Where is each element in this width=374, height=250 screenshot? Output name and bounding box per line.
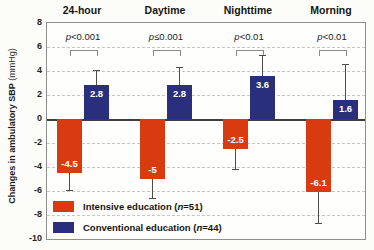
bar-value-label: -6.1 <box>306 177 331 188</box>
gridline <box>47 71 365 72</box>
significance-bracket <box>153 50 181 56</box>
bar-value-label: 2.8 <box>167 88 192 99</box>
error-bar-cap <box>93 70 100 71</box>
significance-bracket <box>319 50 347 56</box>
y-tick-label: -10 <box>16 233 42 243</box>
bar-value-label: -5 <box>140 164 165 175</box>
figure: Changes in ambulatory SBP (mmHg) p<0.001… <box>0 0 374 250</box>
category-header: Daytime <box>123 4 207 16</box>
legend-item: Conventional education (n=44) <box>53 222 222 233</box>
error-bar <box>96 70 97 86</box>
y-tick-label: 8 <box>16 17 42 27</box>
error-bar <box>235 149 236 169</box>
p-value-label: p<0.01 <box>212 31 286 42</box>
y-tick-label: 0 <box>16 113 42 123</box>
y-tick-label: 2 <box>16 89 42 99</box>
bar-value-label: 2.8 <box>84 88 109 99</box>
y-tick-label: 6 <box>16 41 42 51</box>
category-header: Morning <box>289 4 373 16</box>
legend-swatch <box>53 201 74 212</box>
y-tick-label: -6 <box>16 185 42 195</box>
error-bar <box>69 173 70 190</box>
bar-value-label: -4.5 <box>57 158 82 169</box>
p-value-label: p≤0.001 <box>129 31 203 42</box>
significance-bracket <box>70 50 98 56</box>
error-bar-cap <box>342 64 349 65</box>
bar-value-label: 3.6 <box>250 79 275 90</box>
y-tick-label: -8 <box>16 209 42 219</box>
y-tick-label: 4 <box>16 65 42 75</box>
legend-item: Intensive education (n=51) <box>53 201 203 212</box>
legend-swatch <box>53 222 74 233</box>
category-header: 24-hour <box>40 4 124 16</box>
error-bar-cap <box>149 198 156 199</box>
p-value-label: p<0.001 <box>46 31 120 42</box>
error-bar-cap <box>259 55 266 56</box>
bar-value-label: -2.5 <box>223 134 248 145</box>
category-header: Nighttime <box>206 4 290 16</box>
error-bar <box>345 64 346 100</box>
error-bar <box>179 67 180 85</box>
legend-label: Intensive education (n=51) <box>83 201 203 212</box>
y-tick-label: -4 <box>16 161 42 171</box>
gridline <box>47 47 365 48</box>
error-bar-cap <box>66 190 73 191</box>
legend-label: Conventional education (n=44) <box>83 222 222 233</box>
y-tick-label: -2 <box>16 137 42 147</box>
error-bar-cap <box>176 67 183 68</box>
bar-value-label: 1.6 <box>333 103 358 114</box>
error-bar <box>152 179 153 198</box>
p-value-label: p<0.01 <box>295 31 369 42</box>
error-bar-cap <box>315 223 322 224</box>
error-bar-cap <box>232 169 239 170</box>
plot-area: p<0.001p≤0.001p<0.01p<0.01-4.5-5-2.5-6.1… <box>46 22 366 240</box>
error-bar <box>318 192 319 223</box>
error-bar <box>262 55 263 75</box>
